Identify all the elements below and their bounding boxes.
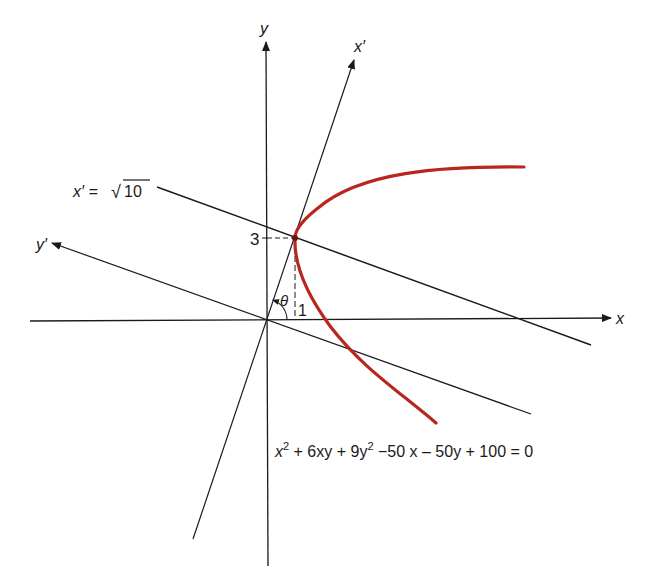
- parabola-equation: x2 + 6xy + 9y2 −50 x – 50y + 100 = 0: [274, 440, 533, 460]
- eq-term-3: −50 x – 50y + 100 = 0: [374, 443, 534, 460]
- line-label-lhs: x′ =: [72, 183, 98, 200]
- theta-label: θ: [280, 292, 288, 309]
- x-prime-label: x′: [353, 38, 366, 55]
- point-1-3: [292, 235, 298, 241]
- x-value-1-label: 1: [298, 302, 307, 319]
- svg-text:x2 + 6xy + 9y2 −50 x – 50y + 1: x2 + 6xy + 9y2 −50 x – 50y + 100 = 0: [274, 440, 533, 460]
- line-x-prime-sqrt10: [157, 187, 591, 345]
- y-axis: [266, 42, 268, 566]
- sqrt-symbol: √: [111, 182, 121, 202]
- y-prime-label: y′: [35, 236, 48, 253]
- y-prime-axis: [52, 243, 531, 414]
- parabola-curve: [295, 167, 524, 423]
- x-axis-label: x: [615, 310, 625, 327]
- rotated-parabola-diagram: y x x′ y′ x′ = √ 10 3 1 θ x2 + 6xy + 9y2…: [0, 0, 655, 588]
- y-value-3-label: 3: [250, 230, 259, 249]
- x-prime-axis: [193, 60, 354, 539]
- sqrt-radicand: 10: [124, 183, 142, 200]
- eq-term-2: + 6xy + 9y: [289, 443, 367, 460]
- y-axis-label: y: [259, 20, 269, 37]
